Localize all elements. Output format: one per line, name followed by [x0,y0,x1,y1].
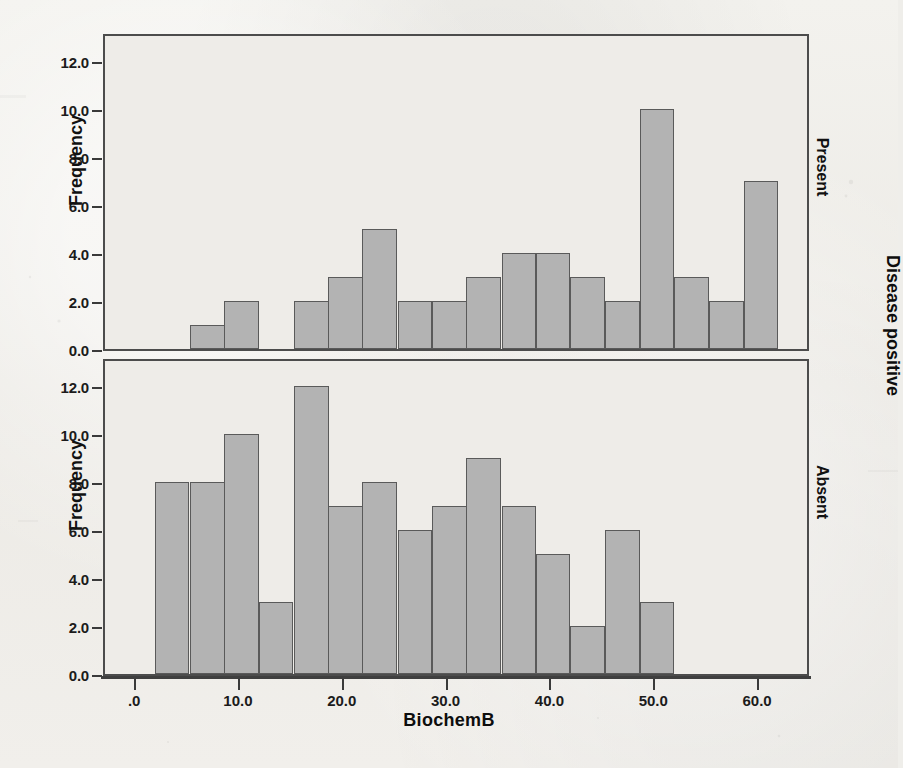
y-tick-mark [92,110,102,112]
histogram-bar [570,277,605,349]
y-tick-mark [92,302,102,304]
y-tick-label: 2.0 [69,294,89,311]
histogram-bar [432,506,467,674]
plot-area-present [105,36,807,349]
histogram-bar [502,253,537,349]
histogram-bar [570,626,605,674]
x-tick-mark [238,679,240,690]
histogram-bar [709,301,744,349]
x-tick-mark [342,679,344,690]
histogram-bar [294,386,329,674]
histogram-bar [224,434,259,674]
y-tick-mark [92,350,102,352]
histogram-bar [605,530,640,674]
x-axis: .010.020.030.040.050.060.0 [103,676,809,677]
y-tick-mark [92,627,102,629]
x-tick-label: .0 [128,692,141,709]
y-axis-present: 0.02.04.06.08.010.012.0 [0,34,103,351]
x-tick-mark [549,679,551,690]
x-tick-label: 60.0 [742,692,771,709]
x-axis-line [101,676,811,679]
histogram-bar [432,301,467,349]
histogram-bar [328,506,363,674]
histogram-bar [398,301,433,349]
histogram-bar [466,277,501,349]
histogram-bar [294,301,329,349]
y-tick-label: 4.0 [69,571,89,588]
y-tick-label: 0.0 [69,667,89,684]
y-tick-mark [92,206,102,208]
y-tick-mark [92,531,102,533]
y-axis-title-present: Frequency [66,81,87,241]
histogram-bar [398,530,433,674]
y-tick-mark [92,158,102,160]
histogram-bar [328,277,363,349]
x-tick-mark [446,679,448,690]
y-tick-mark [92,579,102,581]
histogram-bar [155,482,190,674]
histogram-bar [362,229,397,349]
histogram-bar [190,482,225,674]
x-tick-label: 10.0 [223,692,252,709]
y-tick-mark [92,254,102,256]
panel-disease-absent [103,359,809,676]
histogram-bar [224,301,259,349]
histogram-bar [259,602,294,674]
y-axis-title-absent: Frequency [66,406,87,566]
plot-area-absent [105,361,807,674]
histogram-bar [640,109,675,349]
histogram-bar [190,325,225,349]
panel-label-present: Present [813,87,831,247]
histogram-bar [536,554,571,674]
panel-label-absent: Absent [813,412,831,572]
facet-group-label: Disease positive [882,216,903,436]
x-tick-label: 50.0 [639,692,668,709]
x-tick-label: 40.0 [535,692,564,709]
x-tick-mark [134,679,136,690]
histogram-bar [674,277,709,349]
y-tick-label: 12.0 [61,54,89,71]
x-tick-label: 20.0 [327,692,356,709]
histogram-bar [466,458,501,674]
y-tick-label: 4.0 [69,246,89,263]
x-tick-mark [757,679,759,690]
histogram-bar [536,253,571,349]
y-tick-mark [92,387,102,389]
histogram-bar [605,301,640,349]
histogram-bar [362,482,397,674]
x-axis-title: BiochemB [0,710,898,731]
histogram-bar [744,181,779,349]
panel-disease-present [103,34,809,351]
y-tick-mark [92,435,102,437]
y-tick-label: 12.0 [61,379,89,396]
x-tick-mark [653,679,655,690]
y-tick-label: 2.0 [69,619,89,636]
y-tick-label: 0.0 [69,342,89,359]
histogram-bar [640,602,675,674]
histogram-bar [502,506,537,674]
x-tick-label: 30.0 [431,692,460,709]
y-tick-mark [92,62,102,64]
y-axis-absent: 0.02.04.06.08.010.012.0 [0,359,103,676]
y-tick-mark [92,483,102,485]
